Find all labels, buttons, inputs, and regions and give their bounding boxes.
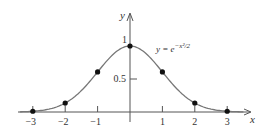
x-tick-label: −2 (58, 116, 69, 127)
x-tick-label: 1 (160, 116, 165, 127)
data-point (192, 100, 197, 105)
data-point (225, 109, 230, 114)
gaussian-chart: −3−2−11230.51 y x y = e−x²/2 (0, 0, 270, 133)
y-axis-label: y (119, 9, 125, 21)
data-point (127, 43, 132, 48)
data-point (95, 69, 100, 74)
x-tick-label: 2 (192, 116, 197, 127)
data-point (160, 69, 165, 74)
x-tick-label: −1 (90, 116, 101, 127)
x-tick-label: 3 (225, 116, 230, 127)
data-point (30, 109, 35, 114)
data-point (63, 100, 68, 105)
function-annotation: y = e−x²/2 (155, 42, 190, 54)
axes (18, 13, 251, 122)
labels: −3−2−11230.51 (25, 34, 229, 127)
y-tick-label: 0.5 (114, 73, 127, 84)
y-tick-label: 1 (122, 34, 127, 45)
x-axis-label: x (249, 113, 255, 125)
x-tick-label: −3 (25, 116, 36, 127)
